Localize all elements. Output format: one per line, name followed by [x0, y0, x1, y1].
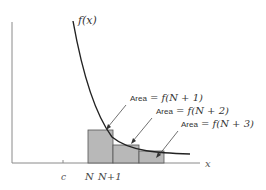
tick-label-n-plus-1: N+1	[97, 171, 122, 182]
annotation-area-n1: Area = f(N + 1)	[130, 92, 203, 103]
integral-test-diagram: f(x) x c N N+1 Area = f(N + 1) Area = f(…	[0, 0, 266, 190]
function-label: f(x)	[77, 14, 97, 27]
arrow-area-n1	[108, 105, 126, 127]
svg-text:Area: Area	[181, 120, 198, 129]
svg-text:Area: Area	[156, 107, 173, 116]
annotation-area-n2: Area = f(N + 2)	[156, 105, 229, 116]
arrowhead-area-n2	[131, 138, 136, 144]
arrow-area-n2	[133, 118, 152, 141]
svg-text:= f(N + 2): = f(N + 2)	[176, 105, 229, 116]
rect-area-n1	[88, 130, 113, 163]
tick-label-c: c	[61, 172, 66, 182]
svg-text:Area: Area	[130, 94, 147, 103]
arrow-area-n3	[159, 131, 178, 155]
svg-text:= f(N + 1): = f(N + 1)	[150, 92, 203, 103]
arrowhead-area-n1	[106, 124, 111, 130]
annotation-area-n3: Area = f(N + 3)	[181, 118, 254, 129]
svg-text:= f(N + 3): = f(N + 3)	[201, 118, 254, 129]
x-axis-label: x	[205, 158, 211, 169]
tick-label-n: N	[84, 171, 95, 182]
